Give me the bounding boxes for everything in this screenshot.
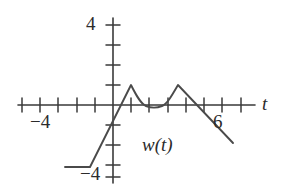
- figure-graph-of-w-of-t: 4 −4 −4 6 t w(t): [0, 0, 285, 196]
- x-axis-tick-label-neg4: −4: [30, 112, 50, 131]
- x-axis-tick-label-6: 6: [213, 112, 223, 131]
- curve-function-label: w(t): [142, 135, 173, 154]
- y-axis-tick-label-4: 4: [86, 14, 96, 33]
- plot-svg: [0, 0, 285, 196]
- y-axis-tick-label-neg4: −4: [80, 164, 100, 183]
- x-axis-name-label: t: [262, 94, 267, 113]
- axes-group: [18, 18, 255, 183]
